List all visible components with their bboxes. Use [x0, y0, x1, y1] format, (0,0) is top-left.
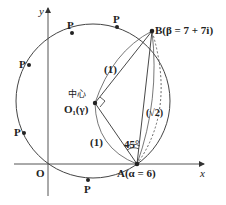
point-a-label: A(α = 6) — [117, 168, 156, 179]
origin-label: O — [36, 168, 45, 179]
p-label-1: P — [67, 20, 74, 31]
segment-label-ab: (√2) — [146, 108, 163, 118]
complex-plane-diagram: y x O A(α = 6) B(β = 7 + 7i) O₁(γ) 中心 P … — [0, 0, 226, 205]
segment-label-o1b: (1) — [104, 64, 117, 75]
p-label-5: P — [84, 184, 91, 195]
right-angle-mark — [100, 97, 105, 107]
point-p-4 — [22, 131, 26, 135]
x-axis-label: x — [200, 168, 205, 179]
point-b-label: B(β = 7 + 7i) — [155, 25, 213, 36]
point-p-1 — [70, 31, 74, 35]
point-p-3 — [27, 63, 31, 67]
segment-o1-a — [95, 103, 137, 164]
center-caption: 中心 — [68, 90, 86, 99]
locus-circle — [16, 24, 170, 178]
point-b — [150, 29, 155, 34]
center-label: O₁(γ) — [64, 104, 88, 115]
y-axis-label: y — [39, 6, 44, 17]
dashed-arc — [137, 31, 161, 164]
point-p-2 — [115, 25, 119, 29]
p-label-3: P — [19, 59, 26, 70]
p-label-4: P — [14, 127, 21, 138]
point-p-5 — [86, 178, 90, 182]
point-a — [135, 162, 140, 167]
p-label-2: P — [113, 14, 120, 25]
angle-label: 45° — [124, 139, 139, 150]
point-o1 — [93, 101, 97, 105]
segment-label-o1a: (1) — [90, 137, 103, 148]
